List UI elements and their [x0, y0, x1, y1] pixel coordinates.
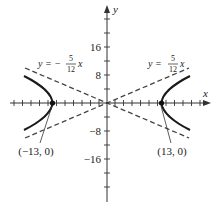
x-axis-arrow-icon [203, 100, 211, 106]
right-asym-prefix: y = [147, 58, 162, 69]
left-asym-prefix: y = − [37, 58, 61, 69]
left-asym-numerator: 5 [69, 54, 73, 63]
x-axis-label: x [202, 87, 208, 99]
left-point-label: (−13, 0) [18, 145, 54, 158]
left-point-leader [40, 106, 52, 143]
y-tick-label-neg8: −8 [89, 125, 101, 137]
left-asymptote-label: y = − 5 12 x [37, 54, 83, 74]
left-asym-var: x [77, 58, 83, 69]
vertex-left-point [50, 100, 55, 105]
right-asym-var: x [179, 58, 185, 69]
y-axis-label: y [112, 3, 118, 15]
vertex-right-point [159, 100, 164, 105]
right-point-label: (13, 0) [157, 145, 187, 158]
left-asym-denominator: 12 [67, 65, 75, 74]
x-axis [10, 100, 211, 106]
y-axis-arrow-icon [104, 5, 110, 13]
right-asym-numerator: 5 [171, 54, 175, 63]
y-tick-label-neg16: −16 [84, 153, 102, 165]
right-asym-denominator: 12 [169, 65, 177, 74]
hyperbola-chart: x y 16 8 −8 −16 (−13, 0) (13, 0) y = − 5… [0, 0, 219, 208]
right-asymptote-label: y = 5 12 x [147, 54, 185, 74]
y-tick-label-8: 8 [96, 69, 102, 81]
y-tick-label-16: 16 [90, 41, 102, 53]
